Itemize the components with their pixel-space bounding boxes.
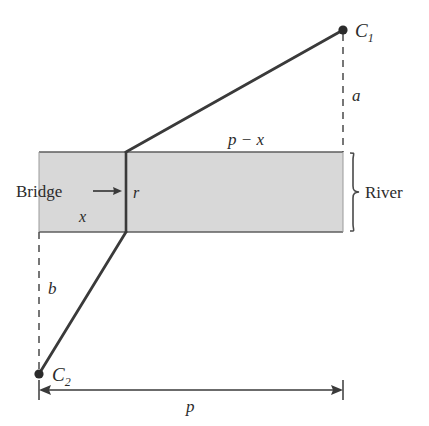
label-distance-p-minus-x: p − x	[227, 130, 264, 149]
road-to-city-two	[39, 232, 126, 374]
label-distance-b: b	[48, 279, 57, 298]
city-one-point	[338, 25, 347, 34]
bridge-river-diagram: C1 C2 Bridge River r x p − x a b p	[0, 0, 429, 426]
city-two-point	[34, 369, 43, 378]
label-bridge: Bridge	[16, 182, 62, 201]
river-brace-icon	[350, 153, 359, 231]
label-river: River	[365, 183, 403, 202]
label-city-one: C1	[355, 20, 374, 45]
label-bridge-segment-r: r	[133, 184, 140, 201]
label-distance-a: a	[352, 86, 361, 105]
label-city-two: C2	[52, 364, 71, 389]
label-distance-x: x	[78, 208, 86, 225]
label-distance-p: p	[185, 397, 195, 416]
